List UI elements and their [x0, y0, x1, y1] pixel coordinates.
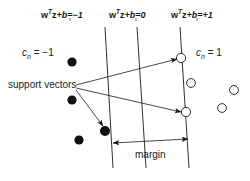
data-point-open [218, 104, 227, 113]
class-label-negative-value: = −1 [31, 47, 54, 58]
hyperplane-label-minus-one: wTz+b=−1 [41, 9, 83, 20]
support-vector-arrow-upper [76, 59, 177, 85]
margin-arrow [113, 139, 188, 143]
support-vectors-label: support vectors [8, 80, 76, 90]
data-point-support-vector-filled [100, 126, 110, 136]
hyperplane-label-plus-one-rest: +b=+1 [187, 10, 213, 20]
class-label-negative: cn = −1 [22, 48, 54, 60]
svm-margin-diagram [0, 0, 250, 181]
data-point-support-vector-open [176, 53, 185, 62]
hyperplane-label-zero-rest: +b=0 [125, 10, 146, 20]
hyperplane-label-zero: wTz+b=0 [109, 9, 146, 20]
hyperplane-label-minus-one-rest: +b=−1 [57, 10, 83, 20]
class-label-positive: cn = 1 [196, 48, 222, 60]
hyperplane-label-zero-w: w [109, 10, 116, 20]
hyperplane-line-minus-one [105, 27, 113, 168]
hyperplane-line-zero [137, 27, 146, 168]
hyperplane-line-plus-one [180, 27, 189, 168]
data-points-positive [176, 53, 238, 116]
support-vector-arrow-lower [76, 88, 181, 112]
hyperplane-label-minus-one-w: w [41, 10, 48, 20]
data-point-filled [67, 57, 76, 66]
hyperplane-label-plus-one-w: w [171, 10, 178, 20]
data-point-open [187, 79, 196, 88]
support-vector-arrow-left [76, 90, 103, 126]
data-points-negative [67, 57, 110, 144]
hyperplane-label-plus-one: wTz+b=+1 [171, 9, 213, 20]
margin-measure [113, 139, 188, 143]
support-vector-arrows [76, 59, 181, 126]
margin-label: margin [135, 150, 166, 160]
data-point-filled [67, 95, 76, 104]
class-label-positive-value: = 1 [205, 47, 222, 58]
data-point-filled [74, 135, 83, 144]
data-point-support-vector-open [181, 107, 190, 116]
data-point-open [230, 86, 239, 95]
